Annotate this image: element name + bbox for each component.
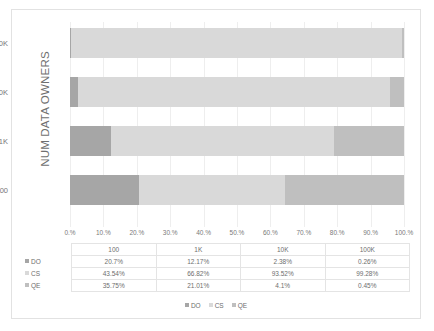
table-row: DO20.7%12.17%2.38%0.26% — [24, 256, 410, 268]
legend-swatch-icon — [209, 303, 213, 307]
table-cell: 99.28% — [325, 268, 410, 280]
gridline — [404, 22, 405, 227]
legend-item-do[interactable]: DO — [185, 302, 201, 309]
bar-segment-cs — [111, 126, 334, 156]
y-axis-title: NUM DATA OWNERS — [39, 29, 51, 189]
chart-legend: DOCSQE — [12, 302, 420, 309]
table-column-header: 1K — [156, 244, 241, 256]
chart-container: NUM DATA OWNERS 100K10K1K100 0.%10.%20.%… — [11, 9, 421, 319]
table-corner-cell — [24, 244, 72, 256]
data-table: 1001K10K100KDO20.7%12.17%2.38%0.26%CS43.… — [24, 243, 410, 292]
bar-row — [70, 77, 404, 107]
table-header-row: 1001K10K100K — [24, 244, 410, 256]
table-cell: 35.75% — [72, 280, 157, 292]
x-tick-label: 80.% — [330, 229, 345, 236]
table-cell: 4.1% — [241, 280, 326, 292]
table-row-label: DO — [31, 258, 41, 265]
series-swatch-icon — [25, 259, 29, 263]
table-column-header: 10K — [241, 244, 326, 256]
bar-segment-cs — [139, 175, 284, 205]
bar-segment-qe — [402, 28, 404, 58]
x-tick-label: 0.% — [64, 229, 75, 236]
table-row: QE35.75%21.01%4.1%0.45% — [24, 280, 410, 292]
x-tick-label: 20.% — [129, 229, 144, 236]
table-column-header: 100K — [325, 244, 410, 256]
x-tick-label: 70.% — [296, 229, 311, 236]
series-swatch-icon — [25, 283, 29, 287]
table-cell: 21.01% — [156, 280, 241, 292]
bar-segment-cs — [71, 28, 403, 58]
table-row: CS43.54%66.82%93.52%99.28% — [24, 268, 410, 280]
legend-item-cs[interactable]: CS — [209, 302, 224, 309]
plot-area: 100K10K1K100 — [70, 22, 404, 227]
bar-segment-qe — [285, 175, 404, 205]
table-cell: 12.17% — [156, 256, 241, 268]
x-tick-label: 10.% — [96, 229, 111, 236]
table-row-label: CS — [31, 270, 40, 277]
x-tick-label: 50.% — [230, 229, 245, 236]
x-tick-label: 90.% — [363, 229, 378, 236]
legend-label: CS — [215, 302, 224, 309]
table-column-header: 100 — [72, 244, 157, 256]
bar-segment-do — [70, 126, 111, 156]
x-tick-label: 60.% — [263, 229, 278, 236]
table-row-label: QE — [31, 282, 40, 289]
legend-swatch-icon — [232, 303, 236, 307]
bar-segment-qe — [390, 77, 404, 107]
bar-row — [70, 126, 404, 156]
table-cell: 43.54% — [72, 268, 157, 280]
legend-label: QE — [238, 302, 247, 309]
table-row-header-do: DO — [24, 256, 72, 268]
legend-swatch-icon — [185, 303, 189, 307]
x-axis-tick-labels: 0.%10.%20.%30.%40.%50.%60.%70.%80.%90.%1… — [70, 229, 404, 241]
table-row-header-qe: QE — [24, 280, 72, 292]
bar-segment-cs — [78, 77, 390, 107]
bar-segment-do — [70, 175, 139, 205]
legend-label: DO — [191, 302, 201, 309]
y-category-label: 10K — [0, 88, 8, 97]
table-cell: 20.7% — [72, 256, 157, 268]
table-cell: 66.82% — [156, 268, 241, 280]
table-cell: 2.38% — [241, 256, 326, 268]
table-cell: 93.52% — [241, 268, 326, 280]
bar-segment-qe — [334, 126, 404, 156]
legend-item-qe[interactable]: QE — [232, 302, 247, 309]
y-category-label: 100K — [0, 39, 8, 48]
x-tick-label: 100.% — [395, 229, 413, 236]
y-category-label: 100 — [0, 186, 8, 195]
y-category-label: 1K — [0, 137, 8, 146]
series-swatch-icon — [25, 271, 29, 275]
table-cell: 0.26% — [325, 256, 410, 268]
x-tick-label: 30.% — [163, 229, 178, 236]
table-cell: 0.45% — [325, 280, 410, 292]
bar-row — [70, 175, 404, 205]
bar-segment-do — [70, 77, 78, 107]
table-row-header-cs: CS — [24, 268, 72, 280]
x-tick-label: 40.% — [196, 229, 211, 236]
bar-row — [70, 28, 404, 58]
